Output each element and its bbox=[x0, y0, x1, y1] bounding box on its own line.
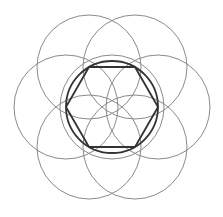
geometric-figure-canvas: Flower of Life Seed Pattern Seven overla… bbox=[0, 0, 223, 217]
canvas-background bbox=[0, 0, 223, 217]
flower-of-life-svg bbox=[0, 0, 223, 217]
